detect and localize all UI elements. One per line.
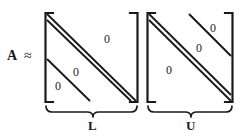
matrix-L-subdiagonal-line xyxy=(47,59,90,101)
zero-entry-L-lower-inner: 0 xyxy=(73,66,79,78)
matrix-U-right-bracket xyxy=(225,13,233,102)
figure-canvas: A ≈ 0 0 0 0 0 0 L U xyxy=(0,0,247,137)
matrix-L-left-bracket xyxy=(46,13,54,102)
matrix-L-right-bracket xyxy=(130,13,138,102)
zero-entry-L-upper-right: 0 xyxy=(104,33,110,45)
matrix-U-diagonal-band xyxy=(149,14,231,101)
underbrace-label-U: U xyxy=(186,119,195,132)
zero-entry-U-upper-outer: 0 xyxy=(210,22,216,34)
zero-entry-L-lower-outer: 0 xyxy=(55,80,61,92)
underbrace-L xyxy=(46,106,137,117)
zero-entry-U-upper-inner: 0 xyxy=(196,42,202,54)
matrix-symbol-A: A xyxy=(7,49,17,63)
approximately-equal-symbol: ≈ xyxy=(24,49,32,63)
underbrace-U xyxy=(148,106,232,117)
underbrace-label-L: L xyxy=(88,119,97,132)
matrix-U-left-bracket xyxy=(148,13,156,102)
zero-entry-U-lower-left: 0 xyxy=(166,64,172,76)
